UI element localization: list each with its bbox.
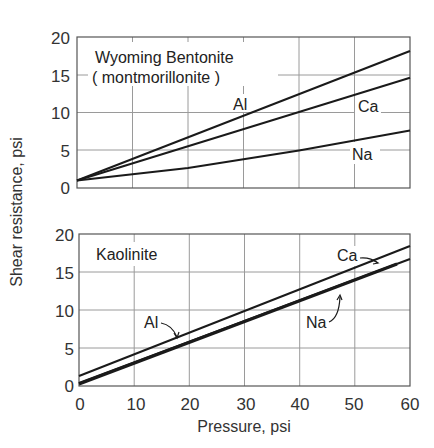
x-axis-title: Pressure, psi: [197, 418, 290, 435]
upper-ytick-5: 5: [61, 142, 70, 161]
upper-label-na: Na: [352, 146, 373, 163]
lower-ytick-5: 5: [65, 340, 74, 359]
upper-ytick-20: 20: [51, 29, 70, 48]
upper-title-line1: Wyoming Bentonite: [95, 49, 234, 66]
lower-label-al: Al: [144, 314, 158, 331]
lower-line-na: [79, 264, 397, 384]
xtick-10: 10: [127, 395, 146, 414]
xtick-60: 60: [401, 395, 420, 414]
xtick-50: 50: [345, 395, 364, 414]
upper-ytick-10: 10: [51, 104, 70, 123]
lower-label-na: Na: [306, 314, 327, 331]
upper-title-line2: ( montmorillonite ): [92, 69, 220, 86]
xtick-30: 30: [237, 395, 256, 414]
chart-canvas: Wyoming Bentonite ( montmorillonite ) Al…: [0, 0, 434, 448]
upper-ytick-0: 0: [61, 179, 70, 198]
lower-label-ca: Ca: [337, 247, 358, 264]
xtick-40: 40: [291, 395, 310, 414]
lower-ytick-15: 15: [55, 264, 74, 283]
xtick-0: 0: [75, 395, 84, 414]
lower-ytick-0: 0: [65, 377, 74, 396]
upper-panel: Wyoming Bentonite ( montmorillonite ) Al…: [51, 29, 410, 198]
y-axis-title: Shear resistance, psi: [8, 137, 25, 286]
xtick-20: 20: [181, 395, 200, 414]
upper-ytick-15: 15: [51, 67, 70, 86]
lower-ytick-10: 10: [55, 302, 74, 321]
upper-label-ca: Ca: [358, 98, 379, 115]
upper-label-al: Al: [233, 96, 247, 113]
lower-title: Kaolinite: [96, 246, 157, 263]
lower-ytick-20: 20: [55, 226, 74, 245]
lower-panel: Kaolinite Al Ca Na 20 15 10 5 0 0 10 20 …: [55, 226, 419, 414]
